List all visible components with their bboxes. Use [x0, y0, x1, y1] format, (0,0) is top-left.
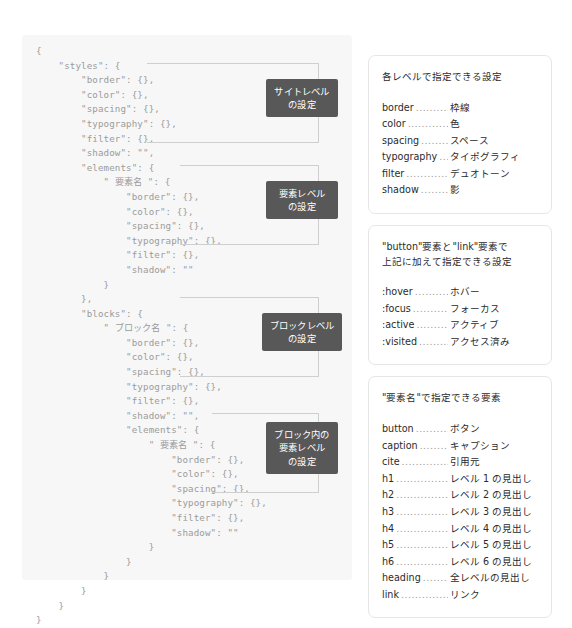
reference-definition: 影 — [450, 182, 538, 199]
label-element-level: 要素レベル の設定 — [266, 181, 338, 219]
reference-term: :visited — [382, 334, 417, 351]
dot-leader: ........................................… — [421, 182, 448, 199]
reference-term: cite — [382, 454, 400, 471]
reference-definition: タイポグラフィ — [450, 149, 538, 166]
reference-cards-column: 各レベルで指定できる設定 border ....................… — [368, 55, 552, 628]
reference-term: heading — [382, 570, 421, 587]
label-block-element-level: ブロック内の 要素レベル の設定 — [266, 422, 338, 474]
dot-leader: ........................................… — [396, 521, 448, 538]
reference-row: :hover .................................… — [382, 284, 538, 301]
reference-term: h5 — [382, 537, 394, 554]
reference-term: h6 — [382, 554, 394, 571]
reference-card-button-link-states: "button"要素と"link"要素で 上記に加えて指定できる設定 :hove… — [368, 225, 552, 365]
reference-row: shadow .................................… — [382, 182, 538, 199]
reference-definition: デュオトーン — [450, 166, 538, 183]
reference-definition: アクセス済み — [450, 334, 538, 351]
reference-row: typography .............................… — [382, 149, 538, 166]
reference-term: typography — [382, 149, 437, 166]
reference-term: :focus — [382, 301, 411, 318]
reference-row: :active ................................… — [382, 317, 538, 334]
reference-definition: レベル 6 の見出し — [450, 554, 538, 571]
reference-card-element-names: "要素名"で指定できる要素 button ...................… — [368, 376, 552, 618]
reference-definition: 枠線 — [450, 100, 538, 117]
reference-term: :hover — [382, 284, 413, 301]
reference-definition: 全レベルの見出し — [450, 570, 538, 587]
dot-leader: ........................................… — [396, 537, 448, 554]
json-code-listing: { "styles": { "border": {}, "color": {},… — [36, 44, 267, 628]
label-site-level: サイトレベル の設定 — [266, 79, 338, 117]
dot-leader: ........................................… — [423, 570, 448, 587]
dot-leader: ........................................… — [413, 301, 448, 318]
reference-card-levels: 各レベルで指定できる設定 border ....................… — [368, 55, 552, 214]
reference-row: h3 .....................................… — [382, 504, 538, 521]
reference-definition: レベル 4 の見出し — [450, 521, 538, 538]
reference-row: button .................................… — [382, 421, 538, 438]
reference-definition: フォーカス — [450, 301, 538, 318]
dot-leader: ........................................… — [401, 587, 448, 604]
reference-definition: スペース — [450, 133, 538, 150]
reference-row: heading ................................… — [382, 570, 538, 587]
reference-row: cite ...................................… — [382, 454, 538, 471]
reference-definition: 引用元 — [450, 454, 538, 471]
reference-row: h5 .....................................… — [382, 537, 538, 554]
reference-row: h4 .....................................… — [382, 521, 538, 538]
reference-row: h2 .....................................… — [382, 487, 538, 504]
reference-definition: ボタン — [450, 421, 538, 438]
dot-leader: ........................................… — [419, 334, 448, 351]
reference-term: spacing — [382, 133, 419, 150]
dot-leader: ........................................… — [396, 504, 448, 521]
reference-row: color ..................................… — [382, 116, 538, 133]
reference-definition: レベル 5 の見出し — [450, 537, 538, 554]
reference-definition: 色 — [450, 116, 538, 133]
reference-definition: レベル 2 の見出し — [450, 487, 538, 504]
dot-leader: ........................................… — [416, 421, 448, 438]
dot-leader: ........................................… — [421, 133, 448, 150]
dot-leader: ........................................… — [406, 166, 448, 183]
reference-term: button — [382, 421, 414, 438]
dot-leader: ........................................… — [416, 317, 448, 334]
reference-card-title: "要素名"で指定できる要素 — [382, 391, 538, 406]
dot-leader: ........................................… — [415, 284, 448, 301]
reference-definition: レベル 3 の見出し — [450, 504, 538, 521]
dot-leader: ........................................… — [408, 116, 448, 133]
reference-card-title: "button"要素と"link"要素で 上記に加えて指定できる設定 — [382, 240, 538, 269]
dot-leader: ........................................… — [402, 454, 448, 471]
reference-row: filter .................................… — [382, 166, 538, 183]
reference-row: spacing ................................… — [382, 133, 538, 150]
reference-definition: アクティブ — [450, 317, 538, 334]
reference-definition: キャプション — [450, 438, 538, 455]
reference-row: link ...................................… — [382, 587, 538, 604]
reference-term: filter — [382, 166, 404, 183]
reference-definition: リンク — [450, 587, 538, 604]
reference-term: link — [382, 587, 399, 604]
reference-row: border .................................… — [382, 100, 538, 117]
reference-row: :visited ...............................… — [382, 334, 538, 351]
dot-leader: ........................................… — [439, 149, 448, 166]
dot-leader: ........................................… — [420, 438, 448, 455]
reference-term: border — [382, 100, 414, 117]
reference-row: h6 .....................................… — [382, 554, 538, 571]
reference-term: h4 — [382, 521, 394, 538]
reference-term: color — [382, 116, 406, 133]
dot-leader: ........................................… — [396, 471, 448, 488]
dot-leader: ........................................… — [396, 554, 448, 571]
label-block-level: ブロックレベル の設定 — [262, 313, 342, 351]
reference-term: h1 — [382, 471, 394, 488]
reference-term: h3 — [382, 504, 394, 521]
reference-definition: レベル 1 の見出し — [450, 471, 538, 488]
reference-term: h2 — [382, 487, 394, 504]
reference-term: :active — [382, 317, 414, 334]
dot-leader: ........................................… — [416, 100, 448, 117]
reference-definition: ホバー — [450, 284, 538, 301]
dot-leader: ........................................… — [396, 487, 448, 504]
reference-term: shadow — [382, 182, 419, 199]
reference-term: caption — [382, 438, 418, 455]
reference-row: h1 .....................................… — [382, 471, 538, 488]
reference-card-title: 各レベルで指定できる設定 — [382, 70, 538, 85]
reference-row: :focus .................................… — [382, 301, 538, 318]
reference-row: caption ................................… — [382, 438, 538, 455]
